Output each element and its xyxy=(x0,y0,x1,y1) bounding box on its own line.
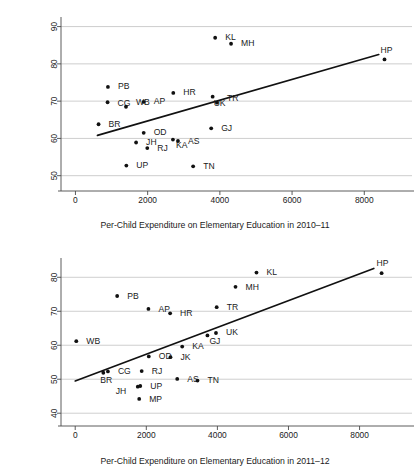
point-marker-WB xyxy=(124,105,128,109)
data-point-JK: JK xyxy=(169,352,191,362)
point-marker-HP xyxy=(380,271,384,275)
y-tick-label-70: 70 xyxy=(49,96,59,106)
point-marker-HR xyxy=(171,91,175,95)
point-marker-JK xyxy=(169,355,173,359)
data-points-2010: KLMHHPPBHRUKCGAPTRWBBRGJODKAASJHRJUPTN xyxy=(97,32,393,171)
y-tick-label-80: 80 xyxy=(49,272,59,282)
data-point-TR: TR xyxy=(215,302,238,312)
y-tick-label-50: 50 xyxy=(49,374,59,384)
y-tick-label-90: 90 xyxy=(49,22,59,32)
point-label-JH: JH xyxy=(146,137,157,147)
data-point-TN: TN xyxy=(191,161,214,171)
data-point-RJ: RJ xyxy=(140,366,162,376)
point-label-RJ: RJ xyxy=(152,366,163,376)
y-tick-label-40: 40 xyxy=(49,408,59,418)
x-tick-labels-2011: 02000400060008000 xyxy=(73,430,369,440)
point-label-GJ: GJ xyxy=(221,123,232,133)
point-marker-OD xyxy=(147,355,151,359)
point-label-PB: PB xyxy=(118,81,130,91)
x-tick-label-0: 0 xyxy=(73,430,78,440)
data-point-HR: HR xyxy=(171,87,195,97)
point-label-RJ: RJ xyxy=(157,143,168,153)
point-marker-CG xyxy=(106,100,110,104)
point-label-TR: TR xyxy=(227,302,238,312)
data-point-PB: PB xyxy=(115,291,139,301)
point-label-OD: OD xyxy=(154,127,167,137)
data-point-UP: UP xyxy=(124,160,148,170)
point-marker-CG xyxy=(106,370,110,374)
point-marker-MH xyxy=(229,42,233,46)
point-marker-JH xyxy=(134,141,138,145)
point-label-HR: HR xyxy=(180,308,192,318)
y-tick-label-50: 50 xyxy=(49,171,59,181)
gridlines-2011 xyxy=(61,277,412,413)
data-point-KL: KL xyxy=(213,32,236,42)
data-point-MP: MP xyxy=(137,394,162,404)
data-point-AP: AP xyxy=(147,304,171,314)
point-label-HR: HR xyxy=(183,87,195,97)
point-marker-PB xyxy=(106,85,110,89)
point-marker-AP xyxy=(147,307,151,311)
point-marker-TN xyxy=(191,164,195,168)
point-label-HP: HP xyxy=(381,45,393,55)
point-label-AP: AP xyxy=(154,96,166,106)
point-label-MH: MH xyxy=(246,282,259,292)
data-point-JH: JH xyxy=(116,385,140,396)
point-marker-HR xyxy=(168,311,172,315)
axes-2011 xyxy=(57,258,414,430)
axes-2010 xyxy=(57,17,414,195)
point-label-BR: BR xyxy=(109,119,121,129)
two-panel-scatter-figure: KLMHHPPBHRUKCGAPTRWBBRGJODKAASJHRJUPTN 0… xyxy=(0,0,415,470)
point-label-MH: MH xyxy=(241,38,254,48)
point-label-TN: TN xyxy=(203,161,214,171)
point-marker-BR xyxy=(97,122,101,126)
chart-2011-svg: KLHPMHPBTRAPHRUKGJWBKAODJKRJCGBRASTNUPJH… xyxy=(0,233,415,470)
point-marker-RJ xyxy=(145,146,149,150)
point-marker-TR xyxy=(215,101,219,105)
chart-2010-svg: KLMHHPPBHRUKCGAPTRWBBRGJODKAASJHRJUPTN 0… xyxy=(0,0,415,235)
x-tick-label-4000: 4000 xyxy=(208,430,227,440)
data-point-KL: KL xyxy=(255,267,278,277)
point-marker-GJ xyxy=(209,126,213,130)
point-label-BR: BR xyxy=(100,375,112,385)
y-tick-label-70: 70 xyxy=(49,306,59,316)
x-axis-title-2011: Per-Child Expenditure on Elementary Educ… xyxy=(100,456,329,466)
data-point-UP: UP xyxy=(138,381,162,391)
data-point-AS: AS xyxy=(175,374,199,384)
point-label-HP: HP xyxy=(377,258,389,268)
point-marker-AS xyxy=(175,377,179,381)
point-label-MP: MP xyxy=(149,394,162,404)
point-marker-KA xyxy=(180,345,184,349)
data-point-PB: PB xyxy=(106,81,130,91)
point-label-WB: WB xyxy=(136,97,150,107)
point-label-JK: JK xyxy=(180,352,190,362)
x-tick-label-8000: 8000 xyxy=(355,195,374,205)
x-tick-label-6000: 6000 xyxy=(279,430,298,440)
point-marker-KL xyxy=(255,271,259,275)
regression-line-2011 xyxy=(75,268,374,380)
point-label-KA: KA xyxy=(192,341,204,351)
point-label-TN: TN xyxy=(207,375,218,385)
data-point-WB: WB xyxy=(74,336,100,346)
point-marker-PB xyxy=(115,294,119,298)
data-point-HP: HP xyxy=(381,45,393,61)
point-marker-AS xyxy=(176,139,180,143)
x-tick-label-0: 0 xyxy=(73,195,78,205)
point-marker-TN xyxy=(196,379,200,383)
point-marker-RJ xyxy=(140,369,144,373)
x-tick-label-8000: 8000 xyxy=(350,430,369,440)
point-label-JH: JH xyxy=(116,386,127,396)
data-point-KA: KA xyxy=(180,341,204,351)
data-point-UK: UK xyxy=(211,95,226,108)
y-tick-labels-2011: 4050607080 xyxy=(49,272,59,418)
x-tick-label-4000: 4000 xyxy=(211,195,230,205)
fit-line xyxy=(75,268,374,380)
point-marker-UK xyxy=(214,331,218,335)
y-tick-labels-2010: 5060708090 xyxy=(49,22,59,181)
point-marker-MH xyxy=(234,285,238,289)
point-label-UP: UP xyxy=(150,381,162,391)
y-tick-label-60: 60 xyxy=(49,133,59,143)
chart-panel-2010: KLMHHPPBHRUKCGAPTRWBBRGJODKAASJHRJUPTN 0… xyxy=(0,0,415,235)
data-point-BR: BR xyxy=(100,371,112,385)
data-point-HR: HR xyxy=(168,308,192,318)
